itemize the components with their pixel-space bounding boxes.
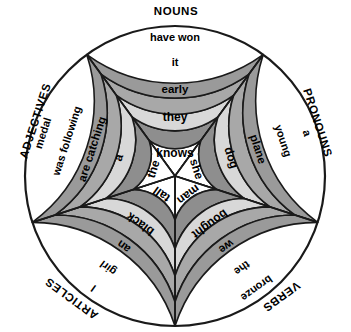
word-pronouns-ring5[interactable]: a bbox=[301, 128, 315, 138]
word-pronouns-ring4[interactable]: young bbox=[273, 123, 295, 158]
word-nouns-ring4[interactable]: it bbox=[172, 56, 179, 68]
word-wheel-diagram: knowstheyearlyithave wonshedogplaneyoung… bbox=[0, 0, 351, 332]
word-nouns-ring3[interactable]: early bbox=[162, 83, 189, 95]
category-label-pronouns[interactable]: PRONOUNS bbox=[301, 87, 334, 158]
word-nouns-ring1[interactable]: knows bbox=[156, 146, 194, 160]
word-articles-ring4[interactable]: girl bbox=[97, 258, 118, 278]
word-articles-ring5[interactable]: I bbox=[88, 283, 98, 295]
word-verbs-ring4[interactable]: the bbox=[232, 259, 252, 278]
word-nouns-ring2[interactable]: they bbox=[163, 110, 188, 124]
category-label-nouns[interactable]: NOUNS bbox=[154, 5, 199, 17]
category-label-articles[interactable]: ARTICLES bbox=[43, 276, 100, 322]
word-nouns-ring5[interactable]: have won bbox=[150, 31, 200, 43]
wheel-canvas: knowstheyearlyithave wonshedogplaneyoung… bbox=[0, 0, 351, 332]
